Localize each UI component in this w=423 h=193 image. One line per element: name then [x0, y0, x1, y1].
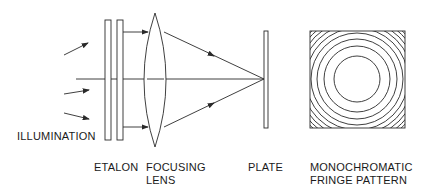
label-fringe-1: MONOCHROMATIC [310, 161, 413, 174]
label-focusing-lens-1: FOCUSING [146, 161, 206, 174]
fringe-pattern [291, 13, 423, 145]
label-fringe-2: FRINGE PATTERN [310, 174, 407, 187]
label-plate: PLATE [248, 161, 283, 174]
etalon [105, 20, 123, 140]
plate [264, 31, 268, 128]
label-etalon: ETALON [94, 161, 138, 174]
label-illumination: ILLUMINATION [17, 130, 96, 143]
label-focusing-lens-2: LENS [146, 174, 176, 187]
illumination-rays [64, 43, 89, 119]
